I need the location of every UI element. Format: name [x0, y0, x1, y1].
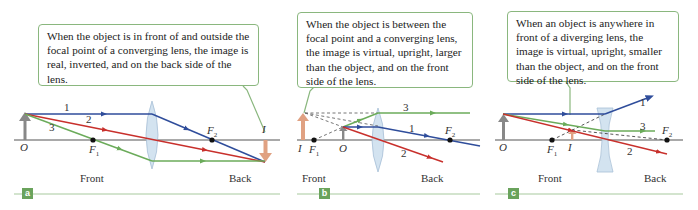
front-label: Front: [538, 172, 562, 184]
f1-label: F1: [309, 143, 319, 158]
ray-label-2: 2: [86, 113, 92, 125]
callout-pointer: [304, 87, 314, 113]
panel-tag-b: b: [319, 188, 330, 199]
ray-label-2: 2: [401, 147, 407, 159]
ray-label-1: 1: [409, 122, 415, 134]
front-label: Front: [302, 172, 326, 184]
ray-label-2: 2: [627, 145, 633, 157]
image-label: I: [298, 142, 302, 154]
ray-label-3: 3: [640, 120, 646, 132]
back-label: Back: [644, 172, 667, 184]
image-label: I: [568, 141, 572, 153]
image-label: I: [262, 123, 266, 135]
f1-label: F1: [89, 143, 99, 158]
focal-point-f1: [311, 137, 316, 142]
panel-tag-a: a: [22, 188, 33, 199]
ray-label-1: 1: [640, 96, 646, 108]
panel-tag-c: c: [508, 188, 519, 199]
callout-panel-a: When the object is in front of and outsi…: [38, 24, 259, 86]
object-label: O: [339, 142, 347, 154]
ray-label-3: 3: [49, 121, 55, 133]
object-label: O: [499, 141, 507, 153]
focal-point-f1: [90, 137, 95, 142]
f2-label: F2: [662, 124, 672, 139]
f1-label: F1: [547, 143, 557, 158]
f2-label: F2: [445, 124, 455, 139]
back-label: Back: [229, 172, 252, 184]
callout-panel-b: When the object is between the focal poi…: [297, 12, 473, 88]
front-label: Front: [80, 172, 104, 184]
ray-label-3: 3: [403, 101, 409, 113]
f2-label: F2: [207, 124, 217, 139]
callout-panel-c: When an object is anywhere in front of a…: [507, 11, 679, 82]
object-label: O: [20, 141, 28, 153]
back-label: Back: [421, 172, 444, 184]
focal-point-f1: [549, 137, 554, 142]
ray-label-1: 1: [64, 101, 70, 113]
